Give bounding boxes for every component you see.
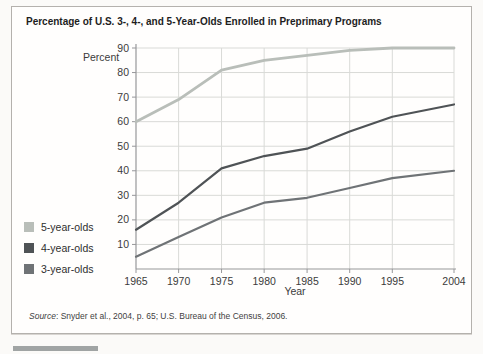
source-note: Source: Snyder et al., 2004, p. 65; U.S.… [29, 311, 459, 321]
y-tick-label: 90 [117, 42, 129, 54]
figure-box: Percentage of U.S. 3-, 4-, and 5-Year-Ol… [11, 6, 472, 334]
series-line-5-year-olds [136, 48, 454, 122]
y-tick-label: 70 [117, 91, 129, 103]
legend-item-4-year-olds: 4-year-olds [24, 242, 94, 253]
series-line-3-year-olds [136, 171, 454, 257]
chart-legend: 5-year-olds 4-year-olds 3-year-olds [24, 221, 94, 284]
legend-swatch-4-year-olds-icon [24, 243, 34, 253]
x-axis-title: Year [136, 285, 454, 297]
y-tick-label: 40 [117, 164, 129, 176]
legend-label-3-year-olds: 3-year-olds [41, 263, 94, 275]
y-tick-label: 60 [117, 115, 129, 127]
legend-label-4-year-olds: 4-year-olds [41, 242, 94, 254]
legend-swatch-5-year-olds-icon [24, 222, 34, 232]
legend-item-3-year-olds: 3-year-olds [24, 263, 94, 274]
series-line-4-year-olds [136, 104, 454, 229]
partial-gray-bar [13, 346, 98, 351]
source-text: : Snyder et al., 2004, p. 65; U.S. Burea… [56, 311, 288, 321]
y-tick-label: 50 [117, 140, 129, 152]
y-tick-label: 30 [117, 189, 129, 201]
legend-swatch-3-year-olds-icon [24, 264, 34, 274]
legend-item-5-year-olds: 5-year-olds [24, 221, 94, 232]
y-tick-label: 80 [117, 66, 129, 78]
source-label: Source [29, 311, 56, 321]
legend-label-5-year-olds: 5-year-olds [41, 221, 94, 233]
y-tick-label: 10 [117, 238, 129, 250]
y-tick-label: 20 [117, 213, 129, 225]
